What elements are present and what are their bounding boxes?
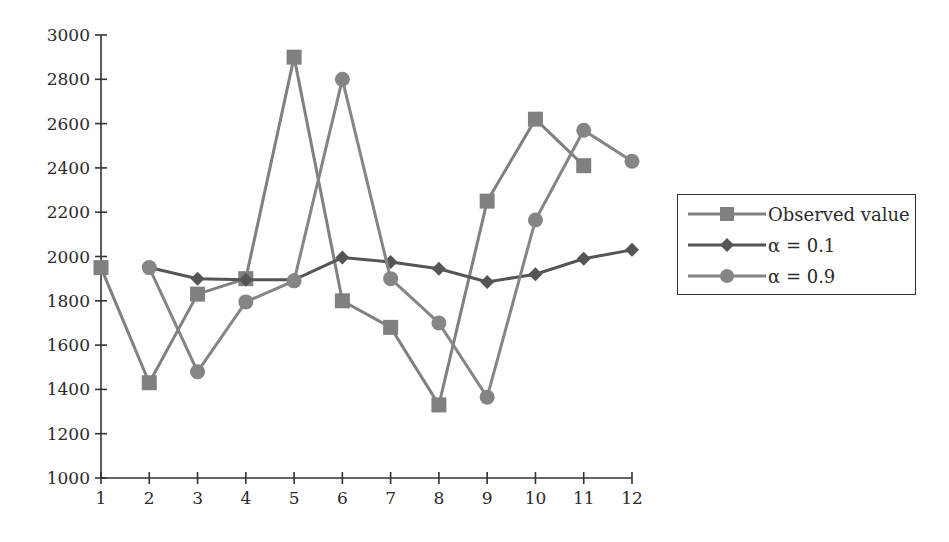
circle-marker [238,294,253,309]
y-tick-label: 2400 [47,158,90,178]
x-tick-label: 5 [289,488,300,508]
y-tick-label: 2000 [47,247,90,267]
square-marker [142,375,157,390]
circle-marker [287,273,302,288]
legend-label: α = 0.9 [768,266,835,287]
series-square [94,50,592,413]
legend-label: α = 0.1 [768,235,835,256]
y-tick-label: 1200 [47,424,90,444]
y-tick-label: 2800 [47,69,90,89]
diamond-marker [528,267,542,281]
square-marker [190,287,205,302]
square-marker [431,397,446,412]
x-tick-label: 9 [482,488,493,508]
circle-marker [576,123,591,138]
x-tick-label: 10 [525,488,547,508]
diamond-marker [191,272,205,286]
legend-item-alpha-0-9: α = 0.9 [688,261,835,291]
x-tick-label: 7 [385,488,396,508]
legend-item-observed: Observed value [688,199,910,229]
series-line [101,57,584,405]
circle-marker [190,364,205,379]
chart-series [94,50,640,413]
x-tick-label: 2 [144,488,155,508]
y-tick-label: 1400 [47,379,90,399]
chart-legend: Observed value α = 0.1 α = 0.9 [677,194,916,295]
diamond-marker-icon [688,235,766,255]
x-tick-label: 11 [573,488,595,508]
y-tick-label: 2600 [47,114,90,134]
circle-marker [480,390,495,405]
x-tick-label: 1 [96,488,107,508]
square-marker [94,260,109,275]
x-tick-label: 6 [337,488,348,508]
circle-marker [528,212,543,227]
square-marker [335,293,350,308]
legend-label: Observed value [768,204,910,225]
diamond-marker [577,252,591,266]
circle-marker [142,260,157,275]
x-tick-label: 8 [433,488,444,508]
circle-marker-icon [688,266,766,286]
circle-marker [625,154,640,169]
square-marker [383,320,398,335]
square-marker [576,158,591,173]
x-tick-label: 12 [621,488,643,508]
y-tick-label: 2200 [47,202,90,222]
square-marker [528,112,543,127]
y-tick-label: 3000 [47,25,90,45]
circle-marker [431,315,446,330]
x-tick-label: 4 [240,488,251,508]
diamond-marker [625,243,639,257]
square-marker [287,50,302,65]
circle-marker [335,72,350,87]
circle-marker [383,271,398,286]
series-line [149,79,632,397]
diamond-marker [335,251,349,265]
diamond-marker [432,262,446,276]
diamond-marker [480,275,494,289]
series-circle [142,72,640,405]
square-marker-icon [688,204,766,224]
legend-item-alpha-0-1: α = 0.1 [688,230,835,260]
x-tick-label: 3 [192,488,203,508]
y-tick-label: 1600 [47,335,90,355]
y-tick-label: 1000 [47,468,90,488]
y-tick-label: 1800 [47,291,90,311]
square-marker [480,194,495,209]
chart-axes: 1000120014001600180020002200240026002800… [47,25,643,508]
